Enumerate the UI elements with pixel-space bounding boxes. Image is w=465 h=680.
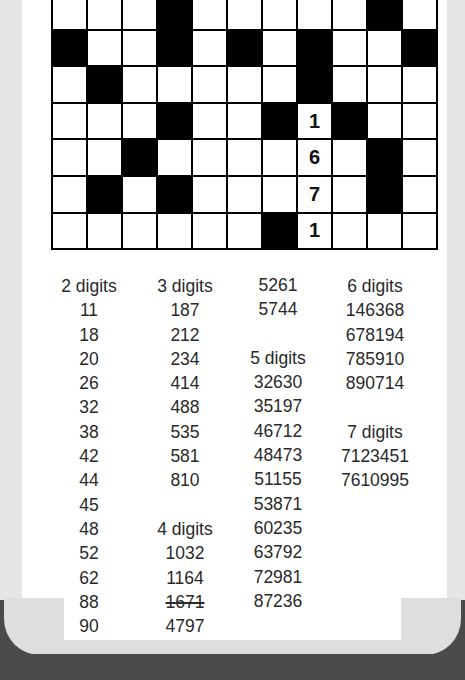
- empty-cell[interactable]: [403, 0, 436, 29]
- filled-cell[interactable]: 6: [298, 140, 331, 175]
- empty-cell[interactable]: [333, 0, 366, 29]
- empty-cell[interactable]: [193, 0, 226, 29]
- filled-cell[interactable]: 7: [298, 177, 331, 212]
- empty-cell[interactable]: [53, 140, 86, 175]
- empty-cell[interactable]: [403, 67, 436, 102]
- empty-cell[interactable]: [333, 214, 366, 249]
- empty-cell[interactable]: [333, 177, 366, 212]
- list-entry[interactable]: 51155: [238, 467, 318, 491]
- list-entry[interactable]: 18: [52, 323, 126, 347]
- list-entry[interactable]: 32630: [238, 370, 318, 394]
- empty-cell[interactable]: [53, 67, 86, 102]
- empty-cell[interactable]: [228, 177, 261, 212]
- empty-cell[interactable]: [263, 177, 296, 212]
- list-entry[interactable]: 212: [145, 323, 225, 347]
- list-entry[interactable]: 187: [145, 298, 225, 322]
- list-entry[interactable]: 62: [52, 566, 126, 590]
- list-entry[interactable]: 581: [145, 444, 225, 468]
- empty-cell[interactable]: [403, 104, 436, 139]
- empty-cell[interactable]: [368, 67, 401, 102]
- list-entry[interactable]: 45: [52, 493, 126, 517]
- list-entry[interactable]: 26: [52, 371, 126, 395]
- empty-cell[interactable]: [193, 104, 226, 139]
- empty-cell[interactable]: [263, 31, 296, 66]
- empty-cell[interactable]: [298, 0, 331, 29]
- list-entry[interactable]: 87236: [238, 589, 318, 613]
- empty-cell[interactable]: [333, 140, 366, 175]
- empty-cell[interactable]: [403, 177, 436, 212]
- empty-cell[interactable]: [88, 140, 121, 175]
- empty-cell[interactable]: [228, 0, 261, 29]
- empty-cell[interactable]: [158, 140, 191, 175]
- list-entry[interactable]: 414: [145, 371, 225, 395]
- list-entry[interactable]: 785910: [330, 347, 420, 371]
- list-entry[interactable]: 38: [52, 420, 126, 444]
- list-entry[interactable]: 44: [52, 468, 126, 492]
- list-entry[interactable]: 53871: [238, 492, 318, 516]
- empty-cell[interactable]: [193, 31, 226, 66]
- list-entry[interactable]: 72981: [238, 565, 318, 589]
- list-entry[interactable]: 20: [52, 347, 126, 371]
- empty-cell[interactable]: [193, 177, 226, 212]
- filled-cell[interactable]: 1: [298, 214, 331, 249]
- list-entry[interactable]: 52: [52, 541, 126, 565]
- empty-cell[interactable]: [123, 104, 156, 139]
- empty-cell[interactable]: [333, 31, 366, 66]
- list-entry[interactable]: 1164: [145, 566, 225, 590]
- empty-cell[interactable]: [123, 214, 156, 249]
- empty-cell[interactable]: [263, 67, 296, 102]
- empty-cell[interactable]: [158, 67, 191, 102]
- empty-cell[interactable]: [193, 214, 226, 249]
- list-entry[interactable]: 60235: [238, 516, 318, 540]
- empty-cell[interactable]: [123, 31, 156, 66]
- empty-cell[interactable]: [228, 104, 261, 139]
- empty-cell[interactable]: [368, 214, 401, 249]
- empty-cell[interactable]: [333, 67, 366, 102]
- filled-cell[interactable]: 1: [298, 104, 331, 139]
- empty-cell[interactable]: [228, 140, 261, 175]
- list-entry[interactable]: 234: [145, 347, 225, 371]
- empty-cell[interactable]: [53, 104, 86, 139]
- list-entry[interactable]: 48473: [238, 443, 318, 467]
- empty-cell[interactable]: [403, 140, 436, 175]
- list-entry[interactable]: 5744: [238, 297, 318, 321]
- empty-cell[interactable]: [228, 67, 261, 102]
- list-entry[interactable]: 810: [145, 468, 225, 492]
- list-entry[interactable]: 35197: [238, 394, 318, 418]
- list-entry[interactable]: 46712: [238, 419, 318, 443]
- empty-cell[interactable]: [53, 214, 86, 249]
- list-entry[interactable]: 42: [52, 444, 126, 468]
- list-entry[interactable]: 32: [52, 395, 126, 419]
- empty-cell[interactable]: [368, 104, 401, 139]
- list-entry[interactable]: 146368: [330, 298, 420, 322]
- empty-cell[interactable]: [88, 0, 121, 29]
- empty-cell[interactable]: [193, 67, 226, 102]
- empty-cell[interactable]: [123, 177, 156, 212]
- list-entry[interactable]: 48: [52, 517, 126, 541]
- list-entry[interactable]: 11: [52, 298, 126, 322]
- empty-cell[interactable]: [228, 214, 261, 249]
- list-entry[interactable]: 1032: [145, 541, 225, 565]
- list-entry[interactable]: 890714: [330, 371, 420, 395]
- empty-cell[interactable]: [53, 0, 86, 29]
- empty-cell[interactable]: [88, 104, 121, 139]
- empty-cell[interactable]: [53, 177, 86, 212]
- list-entry[interactable]: 5261: [238, 273, 318, 297]
- empty-cell[interactable]: [123, 0, 156, 29]
- empty-cell[interactable]: [263, 0, 296, 29]
- list-entry[interactable]: 488: [145, 395, 225, 419]
- empty-cell[interactable]: [158, 214, 191, 249]
- list-entry[interactable]: 4797: [145, 614, 225, 638]
- list-entry[interactable]: 535: [145, 420, 225, 444]
- list-entry[interactable]: 678194: [330, 323, 420, 347]
- list-entry[interactable]: 7123451: [330, 444, 420, 468]
- list-entry[interactable]: 1671: [145, 590, 225, 614]
- empty-cell[interactable]: [123, 67, 156, 102]
- empty-cell[interactable]: [193, 140, 226, 175]
- list-entry[interactable]: 63792: [238, 540, 318, 564]
- empty-cell[interactable]: [263, 140, 296, 175]
- empty-cell[interactable]: [88, 31, 121, 66]
- list-entry[interactable]: 7610995: [330, 468, 420, 492]
- empty-cell[interactable]: [368, 31, 401, 66]
- empty-cell[interactable]: [403, 214, 436, 249]
